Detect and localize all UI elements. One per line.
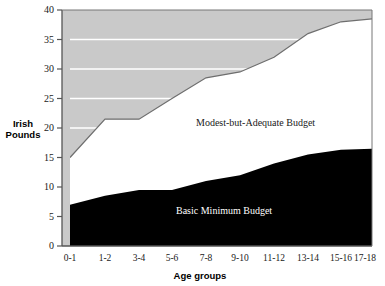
y-axis-ticks [57, 10, 62, 246]
y-axis-title-line2: Pounds [2, 129, 44, 140]
y-tick-label-35: 35 [28, 35, 54, 45]
y-axis-title: Irish Pounds [2, 118, 44, 140]
y-axis-title-line1: Irish [2, 118, 44, 129]
left-margin-strip [62, 10, 70, 246]
series-label-modest-but-adequate-budget: Modest-but-Adequate Budget [196, 117, 315, 128]
series-label-basic-minimum-budget: Basic Minimum Budget [176, 205, 272, 216]
y-tick-label-30: 30 [28, 64, 54, 74]
stacked-area-chart [0, 0, 385, 286]
x-tick-label-17-18: 17-18 [345, 253, 385, 263]
y-tick-label-15: 15 [28, 153, 54, 163]
x-axis-title: Age groups [140, 270, 260, 281]
chart-container: 40 35 30 25 20 15 10 5 0 Irish Pounds 0-… [0, 0, 385, 286]
x-tick-label-0-1: 0-1 [50, 253, 90, 263]
y-tick-label-5: 5 [28, 212, 54, 222]
y-tick-label-40: 40 [28, 5, 54, 15]
y-tick-label-0: 0 [28, 241, 54, 251]
y-tick-label-10: 10 [28, 182, 54, 192]
y-tick-label-25: 25 [28, 94, 54, 104]
